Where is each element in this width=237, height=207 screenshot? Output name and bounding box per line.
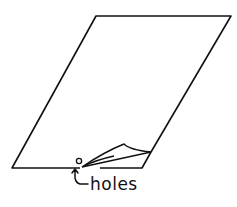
holes-label: holes	[90, 174, 138, 194]
folded-corner-flap	[82, 144, 151, 167]
arrow-icon	[72, 169, 88, 184]
hole-icon	[76, 158, 81, 163]
